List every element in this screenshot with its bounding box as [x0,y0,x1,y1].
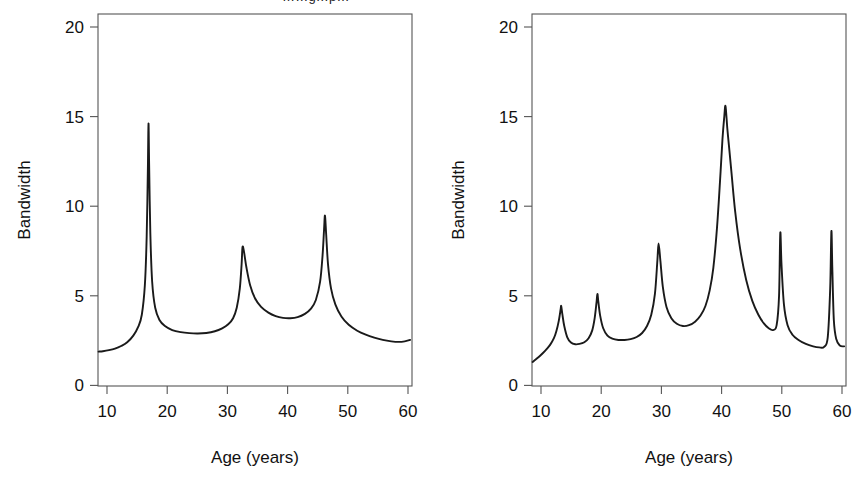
plot-left: 20 15 10 5 0 10 20 30 40 50 60 [0,0,432,495]
y-tick-label: 20 [65,18,84,37]
y-axis-ticks-left [90,27,98,385]
chart-panel-left: 20 15 10 5 0 10 20 30 40 50 60 [0,0,432,495]
y-axis-ticks-right [524,27,532,385]
data-line-left [99,123,411,351]
x-tick-label: 30 [218,402,237,421]
x-tick-label: 10 [98,402,117,421]
plot-frame-left [98,14,412,386]
x-axis-tick-labels-right: 10 20 30 40 50 60 [532,402,852,421]
y-tick-label: 0 [509,376,518,395]
y-axis-title-right: Bandwidth [449,160,468,239]
y-tick-label: 0 [75,376,84,395]
x-tick-label: 40 [278,402,297,421]
x-tick-label: 40 [712,402,731,421]
x-axis-ticks-left [107,386,408,394]
x-tick-label: 20 [592,402,611,421]
x-tick-label: 60 [833,402,852,421]
y-axis-title-left: Bandwidth [15,160,34,239]
x-axis-title-left: Age (years) [211,448,299,467]
chart-panel-right: 20 15 10 5 0 10 20 30 40 50 60 [432,0,865,495]
y-tick-label: 10 [65,197,84,216]
y-tick-label: 15 [499,108,518,127]
x-axis-title-right: Age (years) [645,448,733,467]
x-tick-label: 50 [772,402,791,421]
y-axis-tick-labels-left: 20 15 10 5 0 [65,18,84,395]
y-axis-tick-labels-right: 20 15 10 5 0 [499,18,518,395]
bandwidth-figure: 20 15 10 5 0 10 20 30 40 50 60 [0,0,865,495]
plot-right: 20 15 10 5 0 10 20 30 40 50 60 [432,0,865,495]
x-tick-label: 60 [399,402,418,421]
x-tick-label: 30 [652,402,671,421]
y-tick-label: 20 [499,18,518,37]
x-axis-tick-labels-left: 10 20 30 40 50 60 [98,402,418,421]
plot-frame-right [532,14,846,386]
x-tick-label: 20 [158,402,177,421]
y-tick-label: 15 [65,108,84,127]
x-tick-label: 50 [338,402,357,421]
x-tick-label: 10 [532,402,551,421]
y-tick-label: 10 [499,197,518,216]
y-tick-label: 5 [509,287,518,306]
x-axis-ticks-right [541,386,842,394]
data-line-right [533,106,845,362]
y-tick-label: 5 [75,287,84,306]
